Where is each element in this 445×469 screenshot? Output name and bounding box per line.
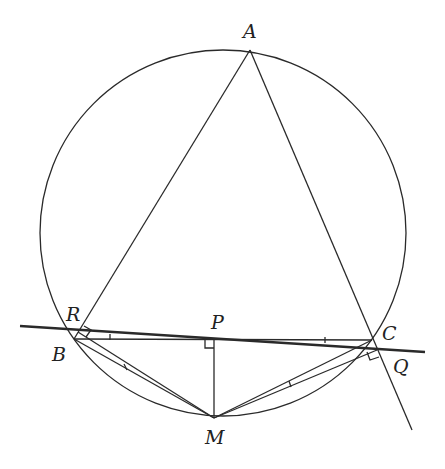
segment-MB [74,339,214,418]
side-AC-extended [250,50,412,430]
label-C: C [382,324,397,343]
diagram-canvas [0,0,445,469]
label-B: B [52,345,66,364]
label-P: P [211,313,224,332]
label-M: M [205,428,224,447]
segment-MQ [214,350,377,418]
segment-MR [78,332,214,418]
label-R: R [66,305,80,324]
right-angle-P [205,340,214,348]
label-A: A [243,22,257,41]
geometry-diagram: A R B P C Q M [0,0,445,469]
segment-MC [214,340,372,418]
label-Q: Q [393,357,409,376]
side-AB [74,50,250,339]
